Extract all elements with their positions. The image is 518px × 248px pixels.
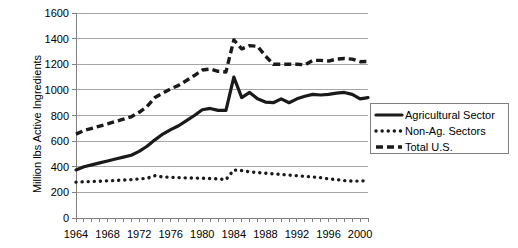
y-tick-label: 400 bbox=[51, 161, 69, 173]
chart-svg: 02004006008001000120014001600 1964196819… bbox=[0, 0, 518, 248]
x-tick-label: 1980 bbox=[190, 228, 214, 240]
legend-label: Agricultural Sector bbox=[405, 109, 495, 121]
plot-gridlines bbox=[76, 13, 368, 218]
y-tick-label: 800 bbox=[51, 110, 69, 122]
y-tick-label: 200 bbox=[51, 186, 69, 198]
y-tick-label: 1400 bbox=[45, 33, 69, 45]
data-series-group bbox=[76, 40, 368, 182]
legend-label: Non-Ag. Sectors bbox=[405, 125, 486, 137]
x-axis-tick-labels: 1964196819721976198019841988199219962000 bbox=[64, 228, 373, 240]
x-tick-label: 1984 bbox=[222, 228, 246, 240]
series-line-dashed bbox=[76, 40, 368, 134]
y-tick-label: 600 bbox=[51, 135, 69, 147]
legend-label: Total U.S. bbox=[405, 141, 453, 153]
chart-screenshot: 02004006008001000120014001600 1964196819… bbox=[0, 0, 518, 248]
x-tick-label: 1964 bbox=[64, 228, 88, 240]
line-chart: 02004006008001000120014001600 1964196819… bbox=[0, 0, 518, 248]
y-axis-title: Million lbs Active Ingredients bbox=[31, 54, 43, 193]
x-tick-label: 1996 bbox=[316, 228, 340, 240]
x-tick-label: 1976 bbox=[158, 228, 182, 240]
chart-legend: Agricultural SectorNon-Ag. SectorsTotal … bbox=[370, 103, 508, 153]
y-tick-label: 1000 bbox=[45, 84, 69, 96]
x-tick-label: 1988 bbox=[253, 228, 277, 240]
y-axis bbox=[72, 13, 76, 218]
y-tick-label: 0 bbox=[63, 212, 69, 224]
x-axis bbox=[76, 218, 368, 222]
x-tick-label: 1992 bbox=[285, 228, 309, 240]
series-line-solid bbox=[76, 77, 368, 170]
x-tick-label: 2000 bbox=[348, 228, 372, 240]
x-tick-label: 1972 bbox=[127, 228, 151, 240]
y-tick-label: 1600 bbox=[45, 7, 69, 19]
x-tick-label: 1968 bbox=[95, 228, 119, 240]
y-tick-label: 1200 bbox=[45, 58, 69, 70]
y-axis-tick-labels: 02004006008001000120014001600 bbox=[45, 7, 69, 224]
series-line-dotted bbox=[76, 170, 368, 182]
